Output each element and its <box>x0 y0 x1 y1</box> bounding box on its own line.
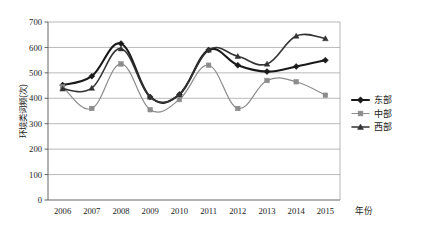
data-point-marker <box>177 97 182 102</box>
line-chart: 0100200300400500600700200620072008200920… <box>0 0 426 239</box>
data-point-marker <box>323 93 328 98</box>
x-tick-label: 2010 <box>171 206 188 216</box>
data-point-marker <box>119 62 124 67</box>
data-point-marker <box>206 63 211 68</box>
y-tick-label: 700 <box>29 17 42 27</box>
x-tick-label: 2011 <box>200 206 217 216</box>
x-axis-title: 年份 <box>355 205 373 216</box>
chart-container: 0100200300400500600700200620072008200920… <box>0 0 426 239</box>
legend-marker-swatch <box>358 111 363 116</box>
y-tick-label: 600 <box>29 43 42 53</box>
x-tick-label: 2007 <box>83 206 101 216</box>
y-tick-label: 200 <box>29 144 42 154</box>
x-tick-label: 2006 <box>54 206 72 216</box>
legend-item-东部[interactable]: 东部 <box>352 94 392 105</box>
data-point-marker <box>294 79 299 84</box>
y-tick-label: 300 <box>29 119 42 129</box>
x-tick-label: 2008 <box>112 206 129 216</box>
x-tick-label: 2014 <box>288 206 306 216</box>
legend-label: 东部 <box>374 94 392 105</box>
legend-marker-swatch <box>357 97 363 103</box>
x-tick-label: 2015 <box>317 206 334 216</box>
y-axis-title: 环境类词频(次) <box>18 84 28 138</box>
y-tick-label: 0 <box>38 195 42 205</box>
y-tick-label: 500 <box>29 68 42 78</box>
data-point-marker <box>148 107 153 112</box>
data-point-marker <box>236 106 241 111</box>
legend-item-西部[interactable]: 西部 <box>352 121 392 132</box>
x-tick-label: 2012 <box>229 206 246 216</box>
legend-label: 西部 <box>374 121 392 132</box>
x-tick-label: 2009 <box>142 206 159 216</box>
y-tick-label: 400 <box>29 93 42 103</box>
y-tick-label: 100 <box>29 170 42 180</box>
x-tick-label: 2013 <box>258 206 275 216</box>
data-point-marker <box>265 78 270 83</box>
data-point-marker <box>90 106 95 111</box>
legend-label: 中部 <box>374 108 392 119</box>
legend-item-中部[interactable]: 中部 <box>352 108 392 119</box>
